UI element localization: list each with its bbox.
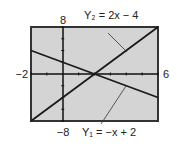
y2-equation-label: Y₂ = 2x − 4: [84, 9, 138, 21]
y1-equation-label: Y₁ = −x + 2: [82, 126, 136, 138]
xmin-label: −2: [15, 68, 28, 80]
ymax-label: 8: [60, 14, 66, 26]
ymin-label: −8: [57, 126, 70, 138]
xmax-label: 6: [163, 68, 169, 80]
graph-figure: 8 −8 −2 6 Y₂ = 2x − 4 Y₁ = −x + 2: [0, 0, 177, 146]
